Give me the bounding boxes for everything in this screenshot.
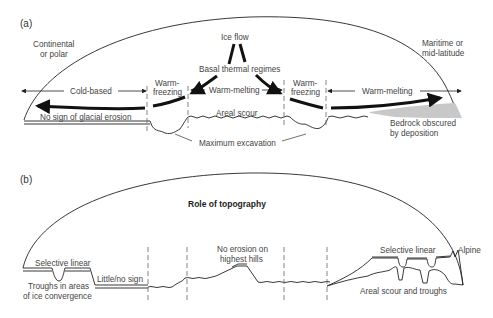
zone-warm-freezing-1: Warm- (155, 79, 180, 88)
panel-b: (b) Role of topography Selective linear … (20, 173, 481, 302)
glacial-erosion-diagram: (a) (0, 0, 493, 318)
zone-warm-melting-1: Warm-melting (209, 86, 260, 95)
selective-linear-left-label: Selective linear (35, 259, 91, 268)
basal-thermal-label: Basal thermal regimes (199, 65, 280, 74)
areal-scour-label: Areal scour (216, 109, 258, 118)
troughs-label-2: of ice convergence (23, 292, 92, 301)
topography-title: Role of topography (188, 199, 266, 209)
ice-flow-stem-left (229, 44, 234, 64)
left-climate-label: Continental (33, 40, 75, 49)
troughs-label: Troughs in areas (28, 282, 89, 291)
bed-areal-troughs (327, 267, 463, 286)
hill-top (232, 264, 247, 267)
zone-warm-melting-2: Warm-melting (362, 87, 413, 96)
selective-linear-right-label: Selective linear (380, 246, 436, 255)
no-erosion-label: No erosion on (217, 245, 268, 254)
areal-scour-troughs-label: Areal scour and troughs (360, 287, 447, 296)
no-sign-label: No sign of glacial erosion (40, 113, 132, 122)
zone-warm-freezing-1b: freezing (153, 88, 183, 97)
panel-a: (a) (20, 17, 465, 148)
ice-flow-segment-2 (290, 99, 323, 108)
bed-middle (148, 266, 330, 288)
ice-flow-segment (153, 97, 185, 106)
bedrock-label: Bedrock obscured (390, 119, 456, 128)
warm-melting-bed-right (328, 116, 368, 118)
alpine-label: Alpine (458, 246, 481, 255)
little-no-sign-label: Little/no sign (97, 275, 143, 284)
zone-cold-based: Cold-based (70, 87, 112, 96)
panel-a-label: (a) (20, 18, 32, 29)
max-excavation-label: Maximum excavation (199, 139, 276, 148)
right-climate-label-2: mid-latitude (422, 49, 465, 58)
panel-b-label: (b) (20, 174, 32, 185)
bedrock-label-2: by deposition (390, 129, 439, 138)
left-climate-label-2: or polar (40, 50, 68, 59)
excavation-trough-1 (150, 117, 188, 134)
ice-flow-arrow-left (38, 106, 145, 109)
ice-flow-label: Ice flow (221, 33, 249, 42)
ice-flow-stem-right (240, 44, 245, 62)
zone-warm-freezing-2: Warm- (293, 79, 318, 88)
no-erosion-label-2: highest hills (220, 255, 263, 264)
zone-warm-freezing-2b: freezing (291, 88, 321, 97)
excavation-trough-2 (290, 117, 328, 129)
right-climate-label: Maritime or (422, 39, 463, 48)
